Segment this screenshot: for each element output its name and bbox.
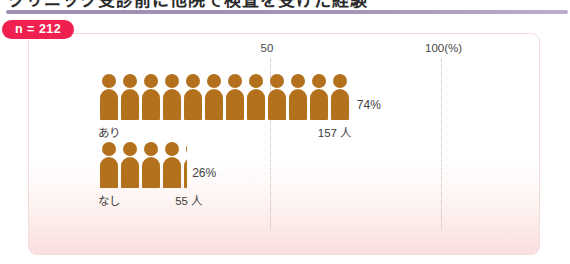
- person-icon: [287, 74, 308, 120]
- person-icon: [245, 74, 266, 120]
- title-divider: [6, 10, 568, 14]
- person-icon: [329, 74, 350, 120]
- count-label: 157 人: [318, 124, 351, 140]
- category-label: あり: [98, 124, 120, 140]
- value-label: 74%: [357, 98, 381, 112]
- person-icon: [161, 74, 182, 120]
- sample-size-badge: n = 212: [2, 20, 74, 39]
- page-title: クリニック受診前に他院で検査を受けた経験: [8, 0, 368, 9]
- person-icon: [140, 74, 161, 120]
- person-icon: [161, 142, 182, 188]
- person-icon: [350, 74, 352, 120]
- value-label: 26%: [192, 166, 216, 180]
- person-icon: [308, 74, 329, 120]
- person-icon: [224, 74, 245, 120]
- person-icon: [98, 142, 119, 188]
- person-icon: [182, 142, 187, 188]
- gridline-100: [441, 59, 443, 229]
- person-icon: [266, 74, 287, 120]
- person-icon: [98, 74, 119, 120]
- category-label: なし: [98, 192, 120, 208]
- person-icon: [182, 74, 203, 120]
- axis-tick-100: 100(%): [425, 42, 462, 54]
- pictogram-bar: [98, 74, 352, 120]
- person-icon: [140, 142, 161, 188]
- pictogram-bar: [98, 142, 187, 188]
- person-icon: [119, 74, 140, 120]
- count-label: 55 人: [175, 192, 202, 208]
- person-icon: [203, 74, 224, 120]
- chart-panel: 50 100(%) 74% あり 157 人 26% なし 55 人: [28, 33, 540, 255]
- page-title-strip: クリニック受診前に他院で検査を受けた経験: [0, 0, 570, 9]
- person-icon: [119, 142, 140, 188]
- axis-tick-50: 50: [261, 42, 274, 54]
